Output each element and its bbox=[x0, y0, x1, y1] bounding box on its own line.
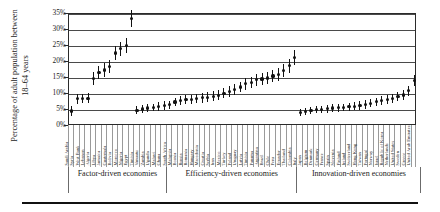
y-axis-tick-label: 15% bbox=[32, 73, 66, 80]
point-marker bbox=[331, 106, 334, 109]
gridline bbox=[69, 78, 415, 79]
x-axis-label: Slovenia bbox=[331, 150, 336, 166]
point-marker bbox=[299, 111, 302, 114]
point-marker bbox=[407, 89, 410, 92]
gridline bbox=[69, 30, 415, 31]
y-axis-title-line1: Percentage of adult population between bbox=[10, 9, 21, 142]
point-marker bbox=[212, 95, 215, 98]
y-axis-tick-label: 0% bbox=[32, 121, 66, 128]
y-axis-tick-label: 25% bbox=[32, 41, 66, 48]
x-axis-label-cell: United Arab Emirates bbox=[411, 125, 416, 167]
point-marker bbox=[375, 100, 378, 103]
point-marker bbox=[255, 78, 258, 81]
point-marker bbox=[222, 92, 225, 95]
point-marker bbox=[396, 95, 399, 98]
point-marker bbox=[190, 98, 193, 101]
point-marker bbox=[413, 79, 416, 82]
point-marker bbox=[163, 104, 166, 107]
gridline bbox=[69, 94, 415, 95]
point-marker bbox=[228, 90, 231, 93]
y-axis-tick-label: 30% bbox=[32, 25, 66, 32]
point-marker bbox=[86, 97, 89, 100]
point-marker bbox=[76, 97, 79, 100]
point-marker bbox=[152, 106, 155, 109]
point-marker bbox=[130, 17, 133, 20]
point-marker bbox=[206, 96, 209, 99]
point-marker bbox=[70, 109, 73, 112]
point-marker bbox=[386, 98, 389, 101]
point-marker bbox=[266, 76, 269, 79]
point-marker bbox=[282, 69, 285, 72]
economy-group-bands: Factor-driven economiesEfficiency-driven… bbox=[68, 167, 416, 193]
chart-figure: Percentage of adult population between 1… bbox=[0, 0, 440, 212]
bottom-rule bbox=[22, 202, 418, 204]
point-marker bbox=[184, 98, 187, 101]
point-marker bbox=[347, 105, 350, 108]
x-axis-label: Ghana bbox=[157, 154, 162, 166]
gridline bbox=[69, 14, 415, 15]
point-marker bbox=[380, 99, 383, 102]
point-marker bbox=[119, 47, 122, 50]
point-marker bbox=[81, 97, 84, 100]
gridline bbox=[69, 62, 415, 63]
x-axis-label: United Arab Emirates bbox=[407, 126, 412, 166]
plot-area bbox=[68, 13, 416, 125]
point-marker bbox=[288, 64, 291, 67]
point-marker bbox=[358, 104, 361, 107]
point-marker bbox=[103, 68, 106, 71]
point-marker bbox=[92, 77, 95, 80]
y-axis-tick-label: 35% bbox=[32, 9, 66, 16]
point-marker bbox=[201, 96, 204, 99]
point-marker bbox=[195, 97, 198, 100]
economy-group: Efficiency-driven economies bbox=[166, 167, 297, 193]
y-axis-tick-label: 20% bbox=[32, 57, 66, 64]
point-marker bbox=[309, 109, 312, 112]
economy-group: Innovation-driven economies bbox=[296, 167, 421, 193]
point-marker bbox=[271, 74, 274, 77]
point-marker bbox=[293, 56, 296, 59]
economy-group-label: Factor-driven economies bbox=[78, 169, 158, 179]
point-marker bbox=[157, 105, 160, 108]
point-marker bbox=[108, 65, 111, 68]
point-marker bbox=[364, 103, 367, 106]
point-marker bbox=[315, 108, 318, 111]
point-marker bbox=[239, 85, 242, 88]
point-marker bbox=[97, 71, 100, 74]
x-axis-label: Syria bbox=[70, 156, 75, 166]
point-marker bbox=[244, 82, 247, 85]
point-marker bbox=[168, 103, 171, 106]
x-axis-category-labels: Saudi ArabiaSyriaWest BankLebanonAlgeria… bbox=[68, 125, 416, 167]
point-marker bbox=[353, 105, 356, 108]
point-marker bbox=[141, 107, 144, 110]
point-marker bbox=[114, 51, 117, 54]
point-marker bbox=[369, 102, 372, 105]
point-marker bbox=[402, 93, 405, 96]
point-marker bbox=[135, 109, 138, 112]
economy-group-label: Efficiency-driven economies bbox=[185, 169, 277, 179]
point-marker bbox=[125, 44, 128, 47]
economy-group-label: Innovation-driven economies bbox=[312, 169, 406, 179]
point-marker bbox=[277, 73, 280, 76]
y-axis-tick-label: 5% bbox=[32, 105, 66, 112]
point-marker bbox=[250, 81, 253, 84]
point-marker bbox=[173, 100, 176, 103]
point-marker bbox=[260, 77, 263, 80]
y-axis-tick-label: 10% bbox=[32, 89, 66, 96]
point-marker bbox=[179, 99, 182, 102]
y-axis-title-line2: 18–64 years bbox=[20, 9, 31, 142]
point-marker bbox=[233, 88, 236, 91]
point-marker bbox=[217, 94, 220, 97]
point-marker bbox=[391, 97, 394, 100]
x-axis-label: Tunisia bbox=[244, 152, 249, 166]
point-marker bbox=[304, 110, 307, 113]
economy-group: Factor-driven economies bbox=[68, 167, 166, 193]
gridline bbox=[69, 110, 415, 111]
